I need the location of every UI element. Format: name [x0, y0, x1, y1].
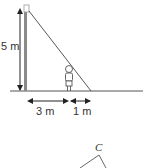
lamp-post: [24, 11, 27, 91]
shadow-label: 1 m: [73, 105, 91, 117]
arrow-down-icon: [17, 85, 23, 91]
height-label: 5 m: [1, 40, 19, 52]
arrow-right-icon: [85, 98, 91, 104]
arrow-up-icon: [17, 8, 23, 14]
vertex-c-label: C: [95, 141, 102, 153]
person-icon: [66, 66, 73, 92]
lamp-icon: [24, 5, 29, 12]
lamp-post-diagram: [0, 0, 151, 168]
arrow-left-icon: [70, 98, 76, 104]
arrow-left-icon: [27, 98, 33, 104]
distance-label: 3 m: [36, 105, 54, 117]
triangle: [80, 155, 106, 168]
arrow-right-icon: [63, 98, 69, 104]
light-ray: [29, 11, 91, 91]
